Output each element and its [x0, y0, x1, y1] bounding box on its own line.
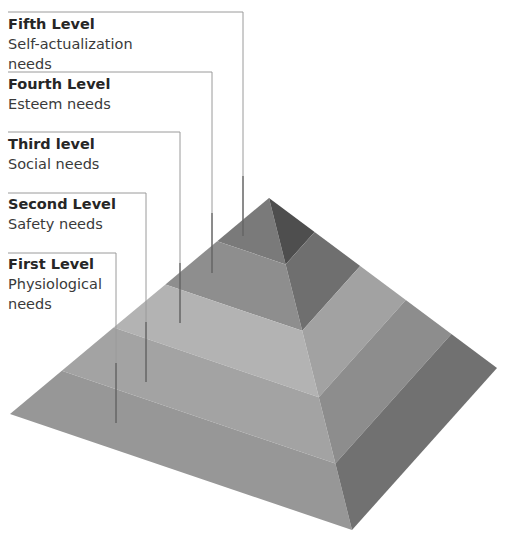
- label-second-level: Second Level Safety needs: [8, 194, 116, 234]
- level-desc: needs: [8, 294, 102, 314]
- pyramid-diagram: Fifth Level Self-actualization needs Fou…: [0, 0, 505, 540]
- level-desc: needs: [8, 54, 133, 74]
- level-desc: Social needs: [8, 154, 99, 174]
- level-title: Third level: [8, 134, 99, 154]
- level-desc: Safety needs: [8, 214, 116, 234]
- label-first-level: First Level Physiological needs: [8, 254, 102, 314]
- level-desc: Physiological: [8, 274, 102, 294]
- level-title: Fifth Level: [8, 14, 133, 34]
- level-title: Fourth Level: [8, 74, 111, 94]
- pyramid-faces: [10, 198, 497, 530]
- level-title: First Level: [8, 254, 102, 274]
- level-title: Second Level: [8, 194, 116, 214]
- label-third-level: Third level Social needs: [8, 134, 99, 174]
- level-desc: Self-actualization: [8, 34, 133, 54]
- label-fourth-level: Fourth Level Esteem needs: [8, 74, 111, 114]
- level-desc: Esteem needs: [8, 94, 111, 114]
- label-fifth-level: Fifth Level Self-actualization needs: [8, 14, 133, 74]
